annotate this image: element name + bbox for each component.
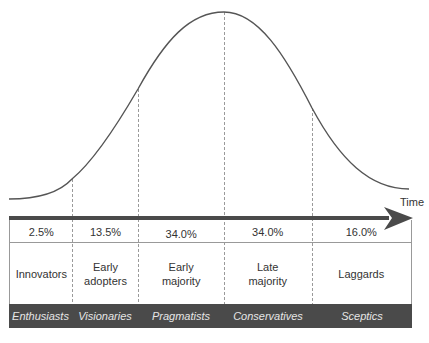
persona-visionaries: Visionaries xyxy=(72,304,138,328)
segment-label-line1: Early xyxy=(162,260,201,274)
segment-label: Laggards xyxy=(338,267,384,281)
percent-late-majority: 34.0% xyxy=(224,220,312,242)
segment-early-majority: Early majority xyxy=(138,243,224,304)
percent-laggards: 16.0% xyxy=(312,220,412,242)
percent-early-adopters: 13.5% xyxy=(73,220,139,242)
segment-label-line2: adopters xyxy=(84,274,127,288)
time-axis-label: Time xyxy=(400,196,424,208)
bell-curve-line xyxy=(9,12,409,199)
persona-enthusiasts: Enthusiasts xyxy=(9,304,72,328)
segment-late-majority: Late majority xyxy=(224,243,312,304)
segment-laggards: Laggards xyxy=(312,243,412,304)
segment-early-adopters: Early adopters xyxy=(73,243,139,304)
segment-label-row: Innovators Early adopters Early majority… xyxy=(9,243,412,304)
segment-label-line1: Late xyxy=(248,260,287,274)
percent-early-majority: 34.0% xyxy=(138,220,224,242)
percent-row: 2.5% 13.5% 34.0% 34.0% 16.0% xyxy=(9,220,412,243)
persona-sceptics: Sceptics xyxy=(312,304,412,328)
persona-conservatives: Conservatives xyxy=(224,304,312,328)
percent-innovators: 2.5% xyxy=(10,220,73,242)
persona-band: Enthusiasts Visionaries Pragmatists Cons… xyxy=(9,304,412,328)
persona-pragmatists: Pragmatists xyxy=(138,304,224,328)
segment-label-line1: Early xyxy=(84,260,127,274)
segment-label-line2: majority xyxy=(162,274,201,288)
segment-label: Innovators xyxy=(16,267,67,281)
segment-label-line2: majority xyxy=(248,274,287,288)
segment-innovators: Innovators xyxy=(10,243,73,304)
